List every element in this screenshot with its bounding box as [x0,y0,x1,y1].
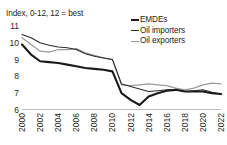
legend-label-oil-exporters: Oil exporters [140,37,185,45]
legend-label-emdes: EMDEs [140,16,167,24]
x-tick-label: 2018 [181,113,190,132]
x-tick-label: 2012 [126,113,135,132]
line-emdes [22,44,221,104]
y-tick-label: 9 [14,55,19,64]
chart-legend: EMDEs Oil importers Oil exporters [131,15,185,47]
x-tick-label: 2006 [72,113,81,132]
x-tick-label: 2022 [217,113,226,132]
x-tick-label: 2004 [54,113,63,132]
legend-item-oil-exporters: Oil exporters [131,36,185,47]
legend-swatch-emdes [131,19,139,21]
legend-label-oil-importers: Oil importers [140,27,185,35]
x-tick-label: 2000 [18,113,27,132]
chart-title: Index, 0-12, 12 = best [6,9,83,18]
legend-swatch-oil-importers [131,30,139,31]
legend-item-emdes: EMDEs [131,15,185,26]
y-tick-label: 10 [10,39,19,48]
series-lines [22,26,221,110]
chart-container: Index, 0-12, 12 = best 11109876 20002002… [0,0,227,145]
x-tick-label: 2014 [144,113,153,132]
plot-area: 11109876 2000200220042006200820102012201… [22,26,221,110]
x-tick-label: 2008 [90,113,99,132]
y-tick-label: 7 [14,89,19,98]
x-tick-label: 2010 [108,113,117,132]
y-tick-label: 11 [10,22,19,31]
x-tick-label: 2002 [36,113,45,132]
x-tick-label: 2020 [199,113,208,132]
y-tick-label: 8 [14,72,19,81]
legend-swatch-oil-exporters [131,41,139,42]
x-tick-label: 2016 [162,113,171,132]
legend-item-oil-importers: Oil importers [131,26,185,37]
